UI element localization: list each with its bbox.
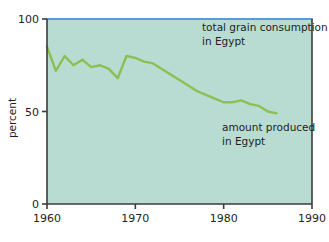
- x-tick-label: 1980: [210, 212, 238, 225]
- x-axis-ticks: 1960197019801990: [33, 204, 326, 225]
- y-tick-label: 50: [25, 106, 39, 119]
- y-axis-ticks: 050100: [18, 13, 47, 211]
- x-tick-label: 1990: [298, 212, 326, 225]
- chart-figure: 050100 1960197019801990 percent total gr…: [0, 0, 329, 242]
- consumption-annotation-line-1: total grain consumption: [202, 21, 328, 33]
- consumption-annotation-line-2: in Egypt: [202, 35, 245, 47]
- grain-consumption-line-chart: 050100 1960197019801990 percent total gr…: [0, 0, 329, 242]
- production-annotation-line-1: amount produced: [222, 121, 315, 133]
- x-tick-label: 1960: [33, 212, 61, 225]
- x-tick-label: 1970: [121, 212, 149, 225]
- y-axis-title: percent: [6, 98, 18, 138]
- production-annotation-line-2: in Egypt: [222, 135, 265, 147]
- y-tick-label: 100: [18, 13, 39, 26]
- y-tick-label: 0: [32, 198, 39, 211]
